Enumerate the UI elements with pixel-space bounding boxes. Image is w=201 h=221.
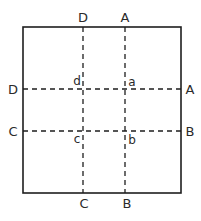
label-bottom-c: C (79, 196, 88, 211)
label-right-a: A (186, 82, 195, 97)
outer-rectangle (23, 27, 181, 193)
label-bottom-b: B (123, 196, 132, 211)
label-left-d: D (8, 82, 18, 97)
label-top-d: D (78, 10, 88, 25)
label-intersection-d: d (73, 74, 81, 88)
label-intersection-c: c (74, 132, 81, 146)
label-top-a: A (121, 10, 130, 25)
label-right-b: B (186, 124, 195, 139)
label-intersection-b: b (128, 133, 136, 147)
label-intersection-a: a (128, 75, 135, 89)
folding-diagram: D A D C A B C B d a c b (0, 0, 201, 221)
label-left-c: C (8, 124, 17, 139)
